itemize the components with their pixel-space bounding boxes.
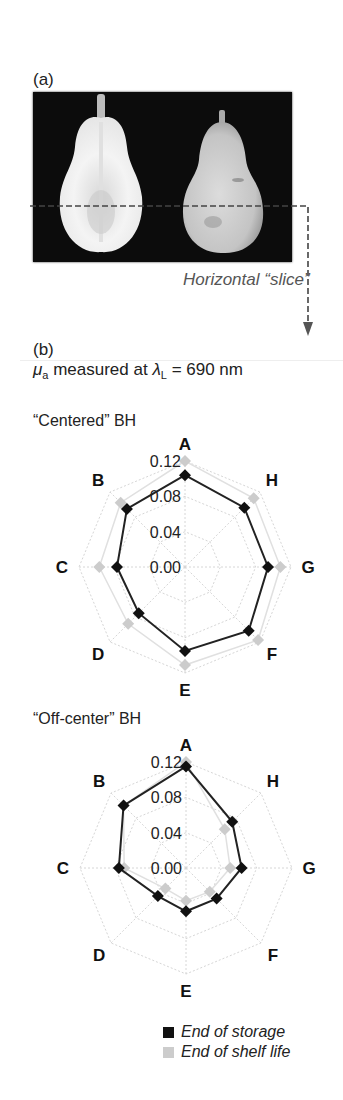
- radar-chart-off-center: 0.000.040.080.12ABCDEFGH: [0, 0, 343, 1100]
- legend: End of storage End of shelf life: [163, 1022, 290, 1062]
- square-icon: [163, 1027, 174, 1038]
- diamond-marker: [180, 905, 192, 917]
- legend-label: End of storage: [181, 1023, 285, 1041]
- diamond-marker: [180, 895, 192, 907]
- legend-item-storage: End of storage: [163, 1022, 290, 1042]
- axis-label-e: E: [180, 982, 191, 1001]
- axis-label-d: D: [93, 946, 105, 965]
- axis-label-g: G: [302, 859, 315, 878]
- tick-label: 0.08: [151, 789, 182, 806]
- spoke: [186, 868, 261, 943]
- axis-label-f: F: [268, 946, 278, 965]
- tick-label: 0.00: [151, 860, 182, 877]
- legend-item-shelf-life: End of shelf life: [163, 1042, 290, 1062]
- axis-label-h: H: [267, 772, 279, 791]
- tick-label: 0.12: [151, 754, 182, 771]
- legend-label: End of shelf life: [181, 1043, 290, 1061]
- square-icon: [163, 1047, 174, 1058]
- tick-label: 0.04: [151, 825, 182, 842]
- diamond-marker: [118, 800, 130, 812]
- axis-label-c: C: [57, 859, 69, 878]
- axis-label-a: A: [180, 736, 192, 755]
- axis-label-b: B: [93, 772, 105, 791]
